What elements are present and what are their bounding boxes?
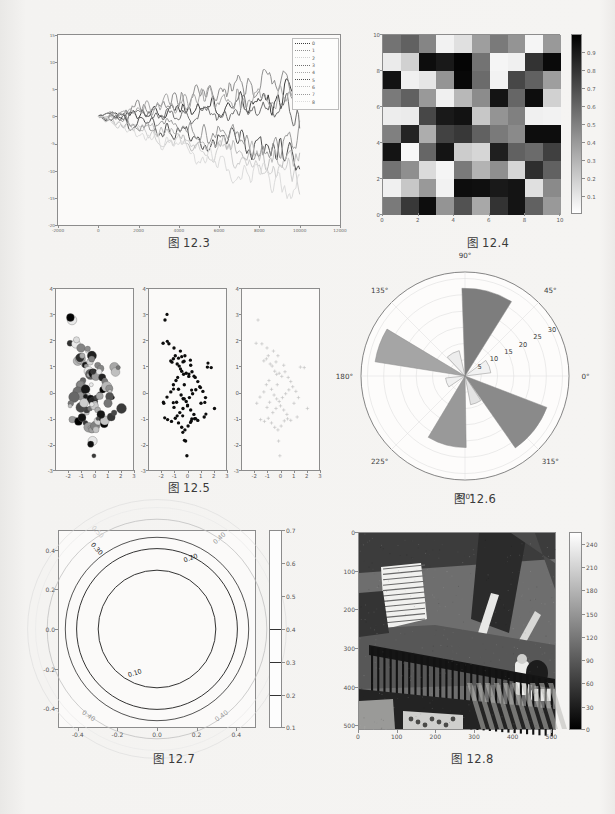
photo-grain (528, 657, 529, 658)
legend-item-6[interactable]: 6 (293, 84, 338, 91)
axis-tick (380, 106, 383, 107)
heatmap-cell (401, 71, 419, 89)
dot-marker (163, 318, 166, 321)
legend-12-3[interactable]: 012345678 (292, 38, 339, 110)
plus-marker (270, 364, 273, 367)
legend-item-0[interactable]: 0 (293, 40, 338, 47)
caption-12-5: 图 12.5 (24, 479, 354, 495)
photo-grain (393, 541, 394, 542)
photo-grain (536, 587, 537, 588)
contour-label: 0.40 (80, 709, 96, 724)
legend-item-7[interactable]: 7 (293, 91, 338, 98)
axis-tick (55, 589, 59, 590)
photo-grain (459, 646, 460, 647)
photo-grain (453, 651, 454, 652)
photo-grain (369, 540, 370, 541)
plus-marker (273, 370, 276, 373)
photo-grain (466, 571, 467, 572)
plus-marker (269, 362, 272, 365)
photo-grain (531, 608, 532, 609)
dot-marker (199, 386, 202, 389)
plus-marker (267, 354, 270, 357)
plus-marker (254, 342, 257, 345)
legend-item-5[interactable]: 5 (293, 76, 338, 83)
photo-grain (447, 639, 448, 640)
colorbar-12-4 (571, 34, 582, 214)
dot-marker (177, 388, 180, 391)
plus-marker (281, 396, 284, 399)
axis-tick (582, 106, 585, 107)
legend-item-8[interactable]: 8 (293, 98, 338, 105)
legend-item-1[interactable]: 1 (293, 47, 338, 54)
axes-12-7: 0.100.200.300.400.400.400.50 (58, 530, 256, 728)
tick-label: 4000 (172, 228, 186, 233)
photo-grain (462, 599, 463, 600)
heatmap-cell (436, 143, 454, 161)
photo-grain (384, 646, 385, 647)
axis-tick (146, 314, 149, 315)
photo-grain (545, 697, 546, 698)
photo-grain (453, 632, 454, 633)
photo-grain (386, 598, 387, 599)
photo-grain (445, 673, 446, 674)
dot-marker (175, 401, 178, 404)
dot-marker (177, 357, 180, 360)
tick-label: 1 (135, 364, 146, 370)
photo-grain (460, 711, 461, 712)
caption-12-6: 图 12.6 (335, 490, 615, 506)
plus-marker (276, 383, 279, 386)
photo-grain (545, 690, 546, 691)
polar-angle-label: 90° (459, 251, 472, 260)
photo-grain (389, 667, 390, 668)
photo-grain (548, 621, 549, 622)
plus-marker (268, 401, 271, 404)
photo-grain (458, 562, 459, 563)
photo-grain (380, 547, 381, 548)
photo-foliage (416, 720, 421, 725)
legend-item-2[interactable]: 2 (293, 55, 338, 62)
heatmap-cell (508, 89, 526, 107)
axis-tick (55, 550, 59, 551)
axis-tick (55, 198, 58, 199)
photo-grain (388, 631, 389, 632)
photo-grain (436, 718, 437, 719)
photo-grain (421, 569, 422, 570)
photo-grain (384, 698, 385, 699)
photo-grain (372, 563, 373, 564)
axes-12-4 (382, 34, 560, 214)
photo-grain (398, 545, 399, 546)
bubble-marker (93, 427, 99, 433)
heatmap-cell (454, 89, 472, 107)
tick-label: 0.3 (286, 659, 296, 666)
photo-grain (422, 586, 423, 587)
photo-grain (434, 540, 435, 541)
photo-grain (383, 720, 384, 721)
plus-marker (285, 413, 288, 416)
photo-grain (397, 698, 398, 699)
photo-grain (521, 639, 522, 640)
dot-marker (206, 365, 209, 368)
legend-item-4[interactable]: 4 (293, 69, 338, 76)
photo-grain (360, 725, 361, 726)
heatmap-cell (419, 143, 437, 161)
photo-grain (535, 551, 536, 552)
photo-grain (551, 721, 552, 722)
photo-grain (376, 723, 377, 724)
legend-label: 7 (312, 92, 315, 97)
photo-grain (480, 657, 481, 658)
tick-label: 5 (41, 87, 55, 92)
heatmap-cell (508, 161, 526, 179)
photo-grain (414, 580, 415, 581)
legend-item-3[interactable]: 3 (293, 62, 338, 69)
dot-marker (177, 421, 180, 424)
contour-line-0.20 (77, 549, 238, 710)
axis-tick (55, 144, 58, 145)
heatmap-grid-12-4 (383, 35, 561, 215)
plus-marker (272, 393, 275, 396)
photo-grain (498, 725, 499, 726)
dot-marker (189, 364, 192, 367)
dot-marker (172, 346, 175, 349)
heatmap-cell (401, 89, 419, 107)
axis-tick (380, 70, 383, 71)
figure-12-8: 01002003004005000100200300400500 0306090… (330, 520, 615, 772)
